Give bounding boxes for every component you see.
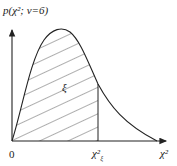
chi-square-plot (0, 0, 177, 166)
quantile-label: χ²ξ (92, 148, 103, 162)
origin-label: 0 (9, 149, 15, 160)
quantile-label-base: χ² (92, 147, 100, 159)
quantile-label-subscript: ξ (100, 154, 103, 162)
y-axis-label: p(χ²; ν=6) (3, 5, 48, 16)
area-label: ξ (62, 82, 67, 93)
x-axis-label: χ² (160, 148, 168, 159)
